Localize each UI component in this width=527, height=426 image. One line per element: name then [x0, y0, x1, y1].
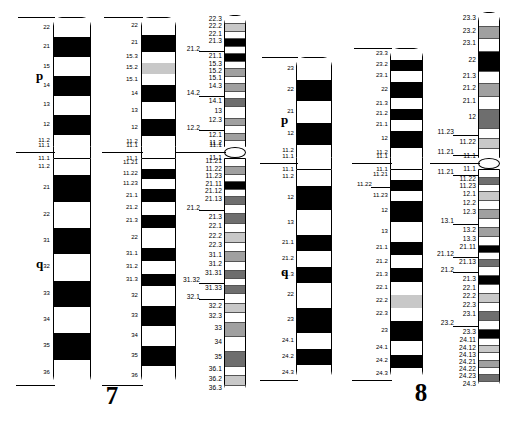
band-label-7q31.2: 31.2 [186, 261, 222, 268]
band-8q13.3 [479, 236, 499, 245]
chromosome-8-q-arm-850 [478, 169, 500, 390]
band-label-8q12: 12 [270, 194, 294, 200]
band-8p21.2 [391, 109, 422, 120]
band-separator [225, 285, 245, 286]
band-separator [479, 51, 499, 52]
chromosome-8-p-arm-400 [296, 57, 332, 158]
band-separator [225, 322, 245, 323]
band-7q33 [54, 281, 90, 308]
band-label-8q21.13: 21.13 [440, 259, 476, 266]
band-label-7p12.1: 12.1 [186, 132, 222, 139]
band-7q35 [54, 333, 90, 360]
q-arm-bottom-rule [260, 380, 298, 381]
band-label-8q11.22: 11.22 [346, 181, 372, 187]
band-8q12 [297, 186, 331, 211]
band-separator [479, 266, 499, 267]
band-separator [479, 109, 499, 110]
band-separator [225, 375, 245, 376]
band-label-7q36.2: 36.2 [186, 376, 222, 383]
band-8q23 [297, 308, 331, 333]
band-separator [479, 96, 499, 97]
band-8p23.3 [479, 13, 499, 26]
band-label-8q24.3: 24.3 [270, 369, 294, 375]
band-label-8q11.1: 11.1 [270, 166, 294, 172]
band-7q21.2 [225, 204, 245, 214]
band-label-8q24.23: 24.23 [440, 373, 476, 380]
band-8p11.23 [479, 128, 499, 139]
band-label-7q35: 35 [112, 352, 138, 358]
band-label-8q21.2: 21.2 [270, 255, 294, 261]
band-label-7q11.22: 11.22 [112, 170, 138, 176]
arm-label-7-p: p [36, 68, 43, 84]
band-label-8p23.3: 23.3 [440, 15, 476, 22]
band-8q21.2 [479, 266, 499, 275]
band-label-7q11.1: 11.1 [112, 155, 138, 161]
band-separator [225, 98, 245, 99]
band-label-8q21.1: 21.1 [362, 244, 388, 250]
band-7q11.22 [142, 169, 175, 180]
band-8q22 [297, 283, 331, 308]
band-separator [479, 345, 499, 346]
label-leader-line [371, 187, 390, 188]
band-label-7q33: 33 [26, 290, 50, 296]
band-label-7q34: 34 [112, 332, 138, 338]
band-8q24.3 [297, 365, 331, 381]
band-8q12.2 [479, 200, 499, 209]
band-8q12.1 [479, 191, 499, 200]
band-8q24.2 [297, 349, 331, 365]
band-8p21.2 [479, 83, 499, 96]
centromere-8-850 [478, 158, 500, 169]
band-separator [479, 71, 499, 72]
band-label-8p21.2: 21.2 [362, 110, 388, 116]
band-label-7p11.1: 11.1 [186, 142, 222, 149]
band-separator [479, 329, 499, 330]
band-separator [225, 118, 245, 119]
band-7q35 [142, 346, 175, 366]
band-label-7p14.1: 14.1 [186, 98, 222, 105]
band-8q21.3 [297, 267, 331, 283]
band-label-8q11.23: 11.23 [362, 192, 388, 198]
chromosome-number-7: 7 [92, 382, 132, 410]
band-7q34 [225, 336, 245, 351]
band-label-8p11.22: 11.22 [440, 139, 476, 146]
band-separator [225, 196, 245, 197]
p-arm-top-rule [18, 17, 55, 18]
ideogram-figure: 22211514131211.211.2212231323334353611.1… [0, 0, 527, 426]
centromere-rule [16, 152, 55, 153]
arm-label-8-p: p [281, 112, 288, 128]
band-7q36.1 [225, 366, 245, 376]
band-separator [225, 278, 245, 279]
band-label-7p12: 12 [26, 121, 50, 127]
band-label-8q22.2: 22.2 [440, 293, 476, 300]
band-8p22 [479, 51, 499, 71]
band-label-8q12.2: 12.2 [440, 200, 476, 207]
band-7p22 [142, 18, 175, 35]
band-separator [479, 311, 499, 312]
band-label-7p14: 14 [112, 90, 138, 96]
band-separator [225, 23, 245, 24]
band-label-8p23.2: 23.2 [440, 28, 476, 35]
band-separator [225, 213, 245, 214]
band-8q22.2 [479, 293, 499, 302]
band-label-7q31.1: 31.1 [112, 250, 138, 256]
band-7q21.1 [142, 189, 175, 202]
band-label-7q11.2: 11.2 [26, 163, 50, 169]
band-7p15.2 [142, 63, 175, 74]
band-label-8p11.23: 11.23 [418, 129, 454, 136]
band-label-8q23.1: 23.1 [440, 311, 476, 318]
band-label-8q12.1: 12.1 [440, 191, 476, 198]
band-label-7p12.2: 12.2 [164, 125, 200, 132]
band-8q11.23 [391, 191, 422, 202]
chromosome-8-q-arm-400 [296, 169, 332, 381]
band-separator [225, 242, 245, 243]
band-label-8q21.3: 21.3 [440, 276, 476, 283]
band-8q13 [297, 210, 331, 235]
band-label-8q24.3: 24.3 [362, 370, 388, 376]
band-8q11.2 [297, 170, 331, 186]
centromere-8-550 [390, 158, 423, 169]
label-leader-line [453, 224, 478, 225]
band-label-7p21.1: 21.1 [186, 53, 222, 60]
band-label-8q12: 12 [362, 207, 388, 213]
band-7p22 [54, 18, 90, 38]
band-label-8p22: 22 [362, 86, 388, 92]
